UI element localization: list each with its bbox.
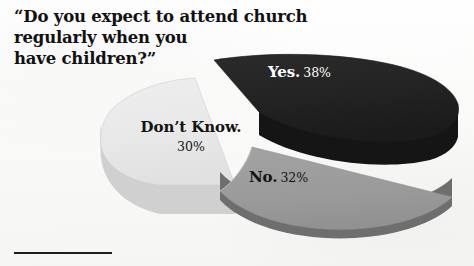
title-line-2: regularly when you — [14, 27, 264, 48]
slice-label-no-pct: 32% — [280, 170, 308, 185]
footer-divider-rule — [14, 252, 112, 254]
slice-label-yes-pct: 38% — [303, 65, 331, 80]
slice-label-no-name: No. — [249, 168, 277, 186]
title-line-3: have children?” — [14, 48, 264, 69]
slice-label-dontknow-pct: 30% — [135, 139, 247, 154]
slice-label-yes: Yes.38% — [268, 62, 331, 81]
title-line-1: “Do you expect to attend church — [14, 6, 264, 27]
slice-label-no: No.32% — [249, 167, 308, 186]
slice-label-yes-name: Yes. — [268, 63, 300, 81]
slice-label-dontknow-name: Don’t Know. — [135, 118, 247, 136]
slice-yes — [214, 54, 459, 164]
chart-title: “Do you expect to attend church regularl… — [14, 6, 264, 69]
slice-label-dontknow: Don’t Know. 30% — [135, 118, 247, 154]
pie-chart-infographic: “Do you expect to attend church regularl… — [0, 0, 474, 266]
